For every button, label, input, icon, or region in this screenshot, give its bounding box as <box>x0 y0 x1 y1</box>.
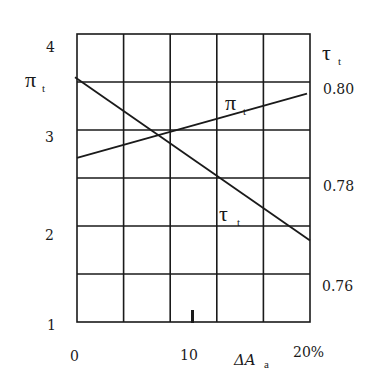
chart: 4 3 2 1 π t τ t 0.80 0.78 0.76 0 10 20% … <box>0 0 378 392</box>
series-label-tau-t-sub: t <box>237 216 240 228</box>
x-tick-20: 20% <box>293 344 324 360</box>
left-tick-2: 2 <box>45 227 54 243</box>
grid <box>77 34 310 322</box>
x-tick-mark-10 <box>191 310 194 323</box>
x-tick-0: 0 <box>70 348 79 364</box>
right-tick-0.80: 0.80 <box>323 81 354 97</box>
left-axis-label: π <box>25 67 36 92</box>
series-label-pi-t-sub: t <box>243 105 246 117</box>
series-label-tau-t: τ <box>219 201 228 226</box>
right-tick-0.78: 0.78 <box>323 178 354 194</box>
right-axis-label: τ <box>322 40 331 65</box>
left-axis-label-sub: t <box>42 82 45 94</box>
right-axis-label-sub: t <box>338 55 341 67</box>
right-tick-0.76: 0.76 <box>322 278 353 294</box>
x-axis-label: ΔA <box>233 351 256 369</box>
left-tick-3: 3 <box>45 129 54 145</box>
series-label-pi-t: π <box>225 90 236 115</box>
left-tick-1: 1 <box>47 317 56 333</box>
x-axis-label-sub: a <box>264 358 269 370</box>
x-tick-10: 10 <box>180 347 198 363</box>
left-tick-4: 4 <box>46 39 55 55</box>
